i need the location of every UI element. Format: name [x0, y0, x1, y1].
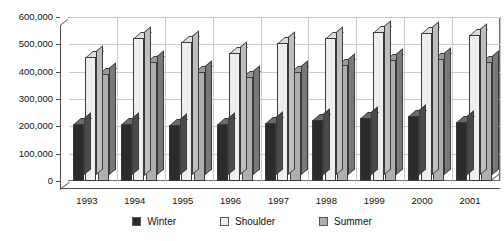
bar-side-face	[205, 60, 212, 175]
bar-side-face	[419, 104, 426, 175]
category-separator	[308, 17, 309, 181]
y-axis-tick-mark	[56, 99, 60, 100]
bar-side-face	[132, 112, 139, 175]
bar-front-face	[217, 124, 228, 181]
x-axis-tick-label: 1994	[111, 195, 159, 206]
bar-side-face	[336, 26, 343, 175]
bar-winter-2001	[456, 122, 467, 181]
x-axis-tick-label: 2000	[398, 195, 446, 206]
y-axis-tick-label: 300,000	[0, 93, 53, 104]
bar-side-face	[323, 108, 330, 175]
bar-winter-1995	[169, 125, 180, 181]
bar-side-face	[492, 50, 499, 175]
legend-label: Summer	[334, 216, 372, 227]
y-axis-tick-mark	[56, 17, 60, 18]
plot-left-wall	[60, 17, 69, 191]
category-separator	[261, 17, 262, 181]
depth-edge-top	[60, 19, 68, 26]
category-separator	[213, 17, 214, 181]
legend-item-shoulder[interactable]: Shoulder	[220, 216, 275, 227]
bar-front-face	[456, 122, 467, 181]
x-axis-tick-label: 1997	[255, 195, 303, 206]
category-separator	[500, 17, 501, 181]
bar-front-face	[312, 120, 323, 181]
bar-winter-1997	[265, 123, 276, 181]
y-axis-tick-label: 500,000	[0, 38, 53, 49]
legend-item-winter[interactable]: Winter	[132, 216, 176, 227]
y-axis-tick-label: 200,000	[0, 120, 53, 131]
bar-side-face	[301, 60, 308, 175]
category-separator	[356, 17, 357, 181]
bar-winter-1998	[312, 120, 323, 181]
category-separator	[165, 17, 166, 181]
bar-front-face	[121, 124, 132, 181]
category-separator	[404, 17, 405, 181]
bar-front-face	[169, 125, 180, 181]
legend-item-summer[interactable]: Summer	[319, 216, 372, 227]
y-axis-tick-label: 100,000	[0, 148, 53, 159]
bar-side-face	[228, 112, 235, 175]
y-axis-tick-mark	[56, 126, 60, 127]
y-axis-tick-label: 400,000	[0, 66, 53, 77]
bar-front-face	[265, 123, 276, 181]
y-axis-tick-mark	[56, 154, 60, 155]
x-axis-tick-label: 1999	[350, 195, 398, 206]
y-axis-line	[60, 25, 61, 189]
x-axis-tick-label: 2001	[446, 195, 494, 206]
category-separator	[117, 17, 118, 181]
x-axis-tick-label: 1996	[207, 195, 255, 206]
y-axis-tick-mark	[56, 181, 60, 182]
plot-area	[60, 17, 500, 191]
bar-chart: 0100,000200,000300,000400,000500,000600,…	[0, 0, 504, 241]
bar-side-face	[396, 48, 403, 175]
bar-side-face	[84, 112, 91, 175]
y-axis-tick-label: 0	[0, 175, 53, 186]
bar-front-face	[360, 118, 371, 181]
chart-legend: WinterShoulderSummer	[0, 212, 504, 230]
bar-winter-1993	[73, 124, 84, 181]
gridline	[69, 17, 500, 18]
shoulder-swatch	[220, 217, 229, 226]
x-axis-line	[60, 188, 500, 189]
bar-side-face	[253, 65, 260, 175]
bar-side-face	[192, 30, 199, 175]
bar-side-face	[157, 50, 164, 175]
bar-front-face	[73, 124, 84, 181]
category-separator	[452, 17, 453, 181]
bar-winter-2000	[408, 116, 419, 181]
bar-side-face	[467, 110, 474, 175]
bar-winter-1999	[360, 118, 371, 181]
y-axis-tick-mark	[56, 72, 60, 73]
bar-side-face	[96, 45, 103, 175]
bar-side-face	[348, 53, 355, 175]
x-axis-tick-label: 1998	[302, 195, 350, 206]
bar-winter-1994	[121, 124, 132, 181]
bar-side-face	[288, 31, 295, 175]
legend-label: Shoulder	[235, 216, 275, 227]
bar-side-face	[180, 113, 187, 175]
y-axis-tick-mark	[56, 44, 60, 45]
bar-side-face	[480, 23, 487, 175]
x-axis-tick-label: 1995	[159, 195, 207, 206]
bar-side-face	[371, 106, 378, 175]
winter-swatch	[132, 217, 141, 226]
bar-side-face	[444, 47, 451, 175]
y-axis-tick-label: 600,000	[0, 11, 53, 22]
x-axis-tick-label: 1993	[63, 195, 111, 206]
bar-winter-1996	[217, 124, 228, 181]
bar-side-face	[240, 41, 247, 175]
bar-side-face	[432, 22, 439, 175]
bar-side-face	[144, 26, 151, 175]
summer-swatch	[319, 217, 328, 226]
bar-side-face	[276, 111, 283, 175]
legend-label: Winter	[147, 216, 176, 227]
bar-front-face	[408, 116, 419, 181]
bar-side-face	[109, 63, 116, 175]
bar-side-face	[384, 20, 391, 175]
